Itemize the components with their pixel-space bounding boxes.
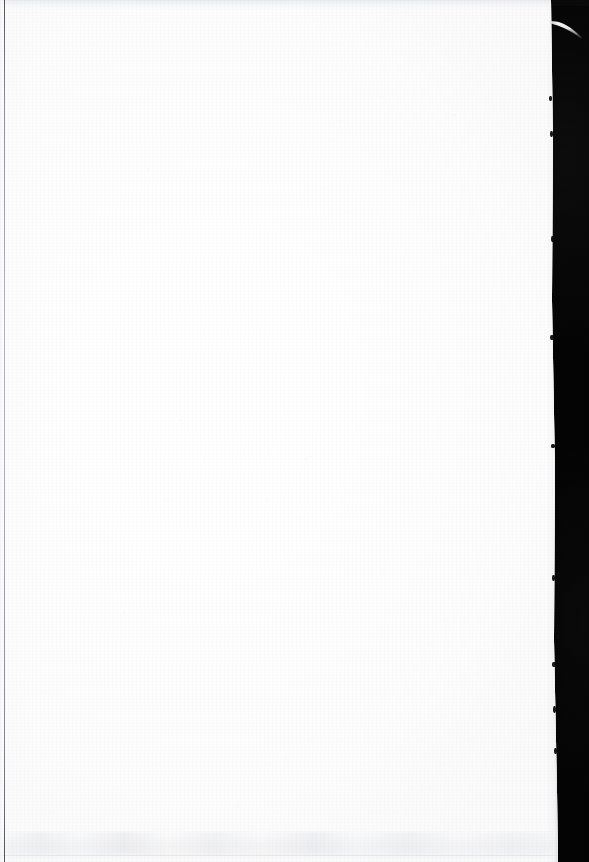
edge-nick [550, 335, 554, 340]
edge-nick [551, 236, 554, 242]
paper-speckle-texture [0, 0, 560, 862]
edge-nick [552, 662, 556, 667]
left-edge-gutter-line [4, 0, 5, 862]
edge-nick [553, 706, 556, 713]
scanned-page-image [0, 0, 589, 862]
top-dark-sliver [551, 0, 589, 6]
edge-nick [554, 748, 557, 754]
edge-nick [549, 96, 552, 101]
bottom-shadow-band [0, 832, 560, 854]
edge-nick [552, 575, 555, 581]
edge-nick [550, 131, 553, 137]
bottom-edge-hairline [0, 855, 560, 856]
edge-nick [551, 444, 555, 448]
page-sheet [0, 0, 560, 862]
